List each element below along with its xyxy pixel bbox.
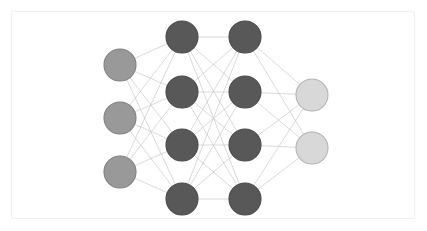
network-graph [0, 0, 427, 231]
node-i1 [104, 49, 136, 81]
node-h2-2 [229, 76, 261, 108]
layer-input-layer [104, 49, 136, 188]
node-h1-2 [166, 76, 198, 108]
layer-output-layer [296, 79, 328, 164]
node-i2 [104, 102, 136, 134]
node-h2-1 [229, 21, 261, 53]
layer-hidden-layer-2 [229, 21, 261, 215]
node-h2-4 [229, 183, 261, 215]
layer-hidden-layer-1 [166, 21, 198, 215]
node-h2-3 [229, 129, 261, 161]
node-o2 [296, 132, 328, 164]
node-h1-4 [166, 183, 198, 215]
node-i3 [104, 156, 136, 188]
nodes-group [104, 21, 328, 215]
edges-group [120, 37, 312, 199]
node-h1-1 [166, 21, 198, 53]
node-o1 [296, 79, 328, 111]
neural-network-figure [0, 0, 427, 231]
node-h1-3 [166, 129, 198, 161]
